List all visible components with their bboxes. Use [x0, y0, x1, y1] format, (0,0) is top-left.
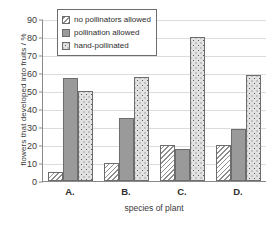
y-axis-tick-label: 90	[27, 15, 37, 25]
legend-item: hand-pollinated	[62, 39, 151, 52]
bar	[119, 118, 134, 181]
y-axis-tick-label: 10	[27, 159, 37, 169]
bar	[63, 78, 78, 181]
y-axis-tick-label: 60	[27, 69, 37, 79]
y-axis-tick-label: 50	[27, 87, 37, 97]
legend-label: no pollinators allowed	[74, 15, 151, 24]
x-axis-tick-label: D.	[210, 186, 266, 197]
bar	[190, 37, 205, 181]
bar	[231, 129, 246, 181]
bar	[48, 172, 63, 181]
bar-group	[155, 20, 211, 181]
legend-item: no pollinators allowed	[62, 13, 151, 26]
y-axis-tick-label: 30	[27, 123, 37, 133]
legend-label: hand-pollinated	[74, 41, 129, 50]
y-axis-tick-label: 70	[27, 51, 37, 61]
y-axis-tick-label: 40	[27, 105, 37, 115]
bar	[160, 145, 175, 181]
legend: no pollinators allowed pollination allow…	[57, 9, 157, 56]
bar-chart: flowers that developed into fruits / % 0…	[0, 0, 279, 228]
x-axis-tick-label: B.	[98, 186, 154, 197]
y-axis-tick-label: 20	[27, 141, 37, 151]
y-axis-tick-mark	[39, 182, 43, 183]
legend-item: pollination allowed	[62, 26, 151, 39]
y-axis-tick-label: 0	[32, 177, 37, 187]
legend-swatch-pollination-allowed-icon	[62, 29, 70, 37]
bar	[246, 75, 261, 181]
bar	[175, 149, 190, 181]
x-axis-title: species of plant	[42, 203, 266, 213]
gridline	[43, 182, 266, 183]
legend-swatch-no-pollinators-icon	[62, 16, 70, 24]
legend-label: pollination allowed	[74, 28, 139, 37]
legend-swatch-hand-pollinated-icon	[62, 42, 70, 50]
bar	[78, 91, 93, 181]
y-axis-tick-label: 80	[27, 33, 37, 43]
x-axis-tick-label: A.	[42, 186, 98, 197]
bar-group	[210, 20, 266, 181]
bar	[104, 163, 119, 181]
bar	[216, 145, 231, 181]
x-axis-tick-labels: A.B.C.D.	[42, 186, 266, 197]
bar	[134, 77, 149, 181]
x-axis-tick-label: C.	[154, 186, 210, 197]
